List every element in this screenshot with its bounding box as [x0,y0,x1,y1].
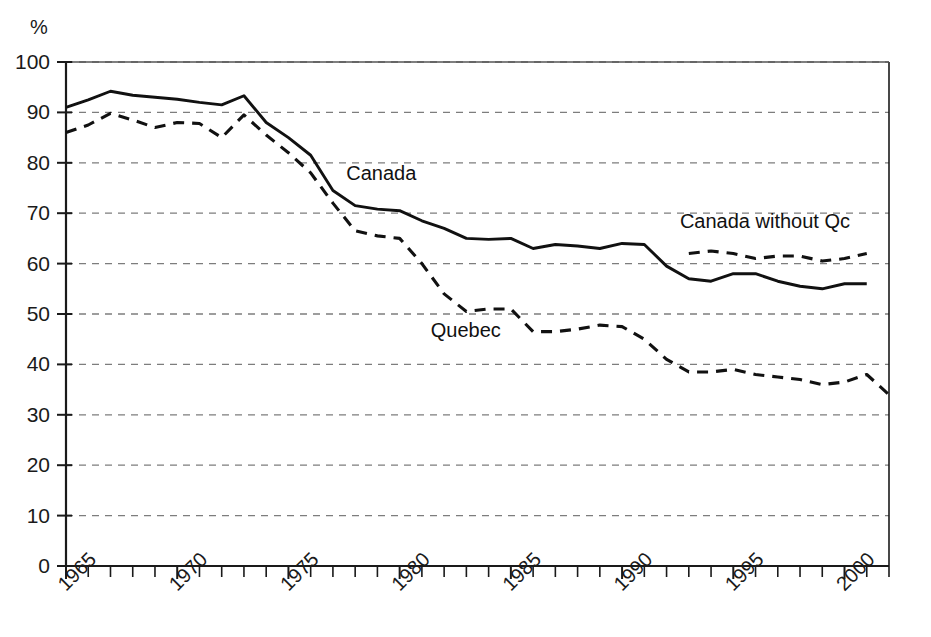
y-tick-label-30: 30 [27,403,50,426]
series-label-quebec: Quebec [431,319,501,341]
x-tick-label-1970: 1970 [164,548,211,595]
x-tick-label-2000: 2000 [832,548,879,595]
series-line-canada [66,91,867,289]
y-tick-label-0: 0 [38,554,50,577]
y-tick-label-90: 90 [27,100,50,123]
x-tick-label-1995: 1995 [721,548,768,595]
chart-container: % 0102030405060708090100 196519701975198… [0,0,931,637]
x-tick-label-1985: 1985 [498,548,545,595]
y-tick-label-70: 70 [27,201,50,224]
x-tick-label-1965: 1965 [53,548,100,595]
x-tick-label-1990: 1990 [609,548,656,595]
y-tick-label-40: 40 [27,352,50,375]
x-tick-label-1975: 1975 [276,548,323,595]
series-line-canada-without-qc [689,251,867,261]
series-line-quebec [66,113,889,394]
y-tick-label-80: 80 [27,151,50,174]
series-label-canada-without-qc: Canada without Qc [680,210,850,232]
x-tick-label-1980: 1980 [387,548,434,595]
y-axis-ticks-group: 0102030405060708090100 [15,50,72,577]
data-series-group [66,91,889,394]
y-tick-label-100: 100 [15,50,50,73]
y-tick-label-50: 50 [27,302,50,325]
gridlines-group [66,62,889,516]
series-label-canada: Canada [346,162,417,184]
y-tick-label-20: 20 [27,453,50,476]
line-chart-plot: 0102030405060708090100 19651970197519801… [0,0,931,637]
x-axis-ticks-group: 19651970197519801985199019952000 [53,548,889,595]
y-tick-label-10: 10 [27,504,50,527]
y-tick-label-60: 60 [27,252,50,275]
